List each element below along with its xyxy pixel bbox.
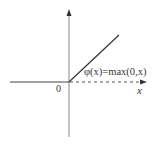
y-axis-arrow-icon: [67, 9, 72, 16]
x-axis-label: x: [136, 84, 142, 96]
function-label: φ(x)=max(0,x): [84, 66, 147, 78]
origin-label: 0: [56, 83, 61, 94]
relu-diagram: φ(x)=max(0,x) 0 x: [0, 0, 156, 149]
